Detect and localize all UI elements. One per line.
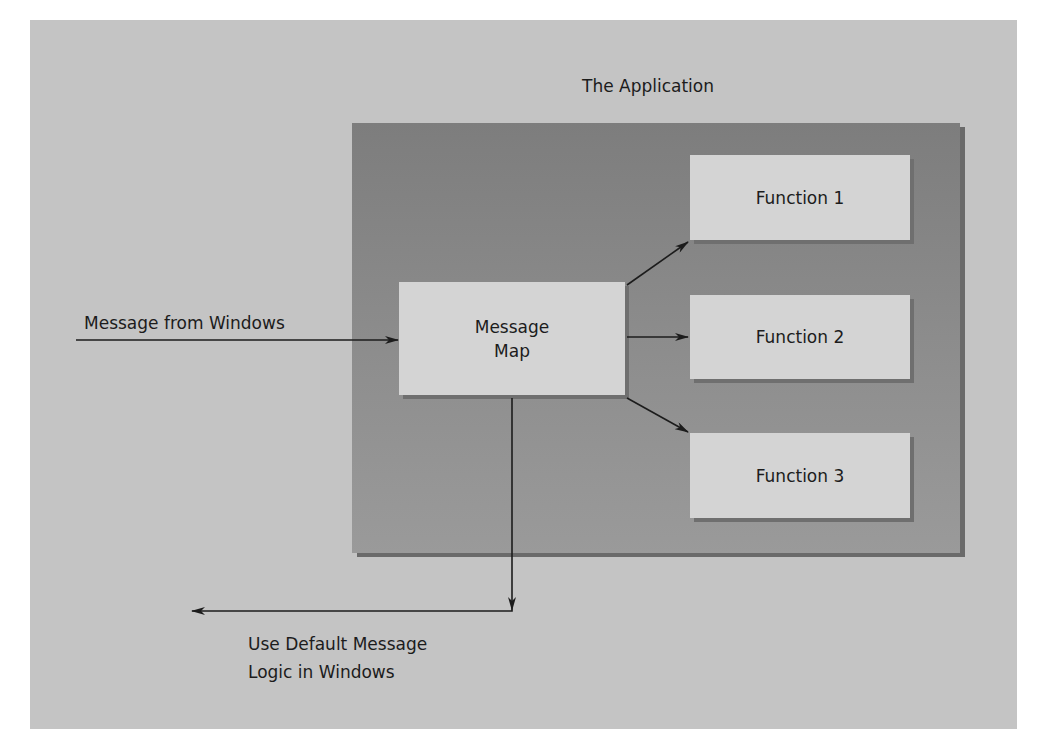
- arrow-to-default-logic: [192, 610, 512, 611]
- connector-arrows: [0, 0, 1042, 747]
- arrow-to-function3: [627, 398, 688, 432]
- arrow-to-function1: [627, 242, 688, 285]
